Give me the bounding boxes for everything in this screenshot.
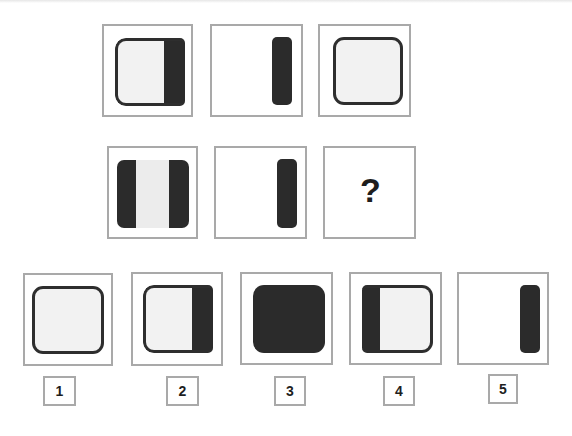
dark-rounded-square-figure — [253, 285, 325, 353]
vertical-bar-figure — [520, 285, 540, 353]
puzzle-cell-r2-c2 — [214, 146, 307, 239]
option-5-label[interactable]: 5 — [488, 374, 518, 404]
option-1-cell[interactable] — [23, 273, 113, 366]
option-3-cell[interactable] — [240, 272, 333, 365]
question-mark: ? — [325, 170, 416, 210]
option-4-label[interactable]: 4 — [383, 376, 415, 406]
rounded-square-figure — [32, 286, 104, 354]
option-4-cell[interactable] — [349, 272, 442, 365]
puzzle-cell-r1-c1 — [102, 24, 193, 117]
puzzle-cell-r2-c3-missing: ? — [323, 146, 416, 239]
option-2-label[interactable]: 2 — [166, 376, 199, 406]
center-stripe-square-figure — [117, 160, 189, 228]
top-edge-bleed — [0, 0, 572, 3]
vertical-bar-figure — [277, 159, 297, 228]
option-3-label[interactable]: 3 — [274, 376, 306, 406]
rounded-square-left-band-figure — [362, 285, 433, 353]
option-5-cell[interactable] — [457, 272, 549, 365]
option-2-cell[interactable] — [131, 272, 223, 366]
option-1-label[interactable]: 1 — [43, 376, 76, 406]
rounded-square-figure — [333, 37, 403, 105]
rounded-square-right-band-figure — [115, 38, 185, 106]
puzzle-cell-r1-c3 — [318, 24, 411, 117]
puzzle-cell-r2-c1 — [107, 146, 198, 239]
rounded-square-right-band-figure — [143, 285, 213, 353]
puzzle-cell-r1-c2 — [210, 24, 303, 117]
vertical-bar-figure — [272, 37, 292, 105]
